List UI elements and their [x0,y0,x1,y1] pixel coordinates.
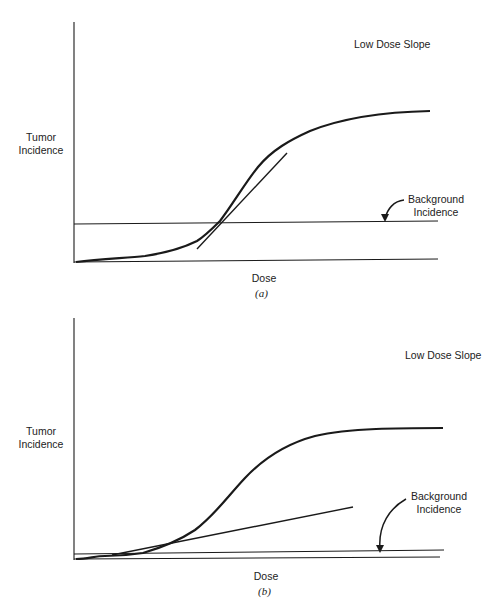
x-axis-label-b: Dose [250,570,282,583]
x-axis-a [74,259,438,262]
low-dose-slope-line-b [112,507,353,555]
background-label-a-line2: Incidence [403,206,469,219]
low-dose-slope-label-a: Low Dose Slope [354,38,430,51]
background-label-a-line1: Background [403,193,469,206]
y-axis-label-b-line2: Incidence [14,438,68,451]
low-dose-slope-line-a [197,153,287,249]
dose-response-curve-b [76,428,443,559]
background-line-a [74,221,438,224]
panel-a [74,22,438,263]
y-axis-label-a: Tumor Incidence [14,131,68,157]
panel-tag-b: (b) [258,585,271,597]
low-dose-slope-label-b: Low Dose Slope [405,349,481,362]
background-label-b-line2: Incidence [405,503,473,516]
panel-b [74,318,444,560]
background-label-b-line1: Background [405,490,473,503]
arrowhead-b [376,545,384,553]
y-axis-label-b-line1: Tumor [14,425,68,438]
background-incidence-label-a: Background Incidence [403,193,469,219]
background-arrow-b [380,499,406,549]
x-axis-label-a: Dose [248,272,280,285]
x-axis-b [74,557,440,559]
y-axis-label-a-line1: Tumor [14,131,68,144]
y-axis-label-a-line2: Incidence [14,144,68,157]
y-axis-label-b: Tumor Incidence [14,425,68,451]
dose-response-curve-a [76,111,430,262]
panel-tag-a: (a) [255,287,268,299]
arrowhead-a [381,214,389,222]
background-incidence-label-b: Background Incidence [405,490,473,516]
